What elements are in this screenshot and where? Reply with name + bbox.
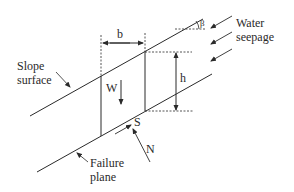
failure-plane-leader (77, 153, 88, 162)
slope-surface-label-line1: Slope (17, 59, 44, 73)
slope-stability-diagram: b h β W Water seepage Slope surface Fail… (0, 0, 294, 192)
shear-force-label: S (134, 115, 141, 129)
slice-width-label: b (117, 27, 123, 41)
seepage-arrow-2 (211, 32, 232, 44)
failure-plane-label-line2: plane (90, 170, 116, 184)
shear-force-arrow (115, 125, 131, 134)
slope-angle-label: β (200, 18, 205, 28)
slice-height-label: h (180, 71, 186, 85)
slope-surface-label-line2: surface (17, 73, 52, 87)
normal-force-label: N (146, 142, 155, 156)
water-seepage-label-line2: seepage (236, 30, 274, 44)
failure-plane-line (37, 74, 212, 172)
failure-plane-label-line1: Failure (90, 156, 124, 170)
seepage-arrow-3 (211, 49, 232, 61)
weight-label: W (106, 81, 118, 95)
slope-surface-leader (56, 72, 70, 87)
seepage-arrow-1 (211, 16, 232, 28)
water-seepage-label-line1: Water (236, 16, 264, 30)
